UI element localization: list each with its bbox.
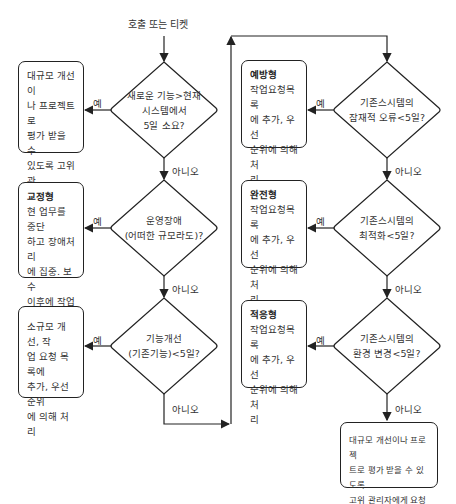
- action-small-enhancement: 소규모 개선, 작 업 요청 목록에 추가, 우선 순위 에 의해 처리: [18, 306, 84, 398]
- decision-latent-errors-text: 기존스시템의 잠재적 오류<5일?: [337, 95, 437, 125]
- decision-outage-text: 운영장애 (어떠한 규모라도)?: [114, 213, 214, 243]
- action-title: 교정형: [27, 189, 77, 204]
- action-escalate-large: 대규모 개선이 나 프로젝트로 평가 받을 수 있도록 고위 관 리자에게 요청: [18, 61, 84, 153]
- yes-label: 예: [93, 333, 102, 347]
- decision-enhancement-text: 기능개선 (기존기능)<5일?: [114, 331, 214, 361]
- decision-new-feature-text: 새로운 기능>현재 시스템에서 5일 소요?: [114, 88, 214, 133]
- decision-environment-text: 기존스시템의 환경 변경<5일?: [337, 331, 437, 361]
- no-label: 아니오: [395, 164, 422, 178]
- action-title: 완전형: [250, 187, 300, 202]
- action-escalate-final: 대규모 개선이나 프로젝 트로 평가 받을 수 있도록 고위 관리자에게 요청: [340, 422, 438, 488]
- yes-label: 예: [316, 96, 325, 110]
- no-label: 아니오: [172, 282, 199, 296]
- start-label: 호출 또는 티켓: [128, 16, 188, 31]
- action-adaptive: 적응형 작업요청목록 에 추가, 우선 순위에 의해 처 리: [241, 300, 307, 388]
- no-label: 아니오: [172, 164, 199, 178]
- yes-label: 예: [93, 96, 102, 110]
- action-perfective: 완전형 작업요청목록 에 추가, 우선 순위에 의해 처 리: [241, 180, 307, 268]
- decision-optimization-text: 기존스시템의 최적화<5일?: [337, 213, 437, 243]
- no-label: 아니오: [172, 402, 199, 416]
- yes-label: 예: [316, 214, 325, 228]
- no-label: 아니오: [395, 402, 422, 416]
- action-corrective: 교정형 현 업무를 중단 하고 장애처리 에 집중. 보수 이후에 작업목 록에…: [18, 182, 84, 278]
- action-title: 적응형: [250, 307, 300, 322]
- yes-label: 예: [93, 214, 102, 228]
- action-title: 예방형: [250, 67, 300, 82]
- action-preventive: 예방형 작업요청목록 에 추가, 우선 순위에 의해 처 리: [241, 60, 307, 148]
- yes-label: 예: [316, 333, 325, 347]
- no-label: 아니오: [395, 282, 422, 296]
